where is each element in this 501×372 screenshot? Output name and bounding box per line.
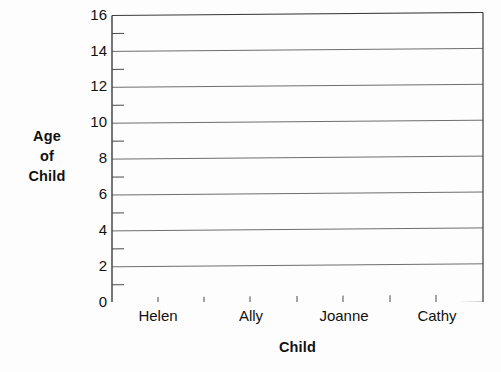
y-tick-label-0: 0 [74,293,107,308]
plot-svg [111,12,484,302]
y-tick-label-4: 4 [74,222,107,237]
x-tick-label-ally: Ally [239,307,263,325]
x-axis-tick-labels: Helen Ally Joanne Cathy [111,307,484,331]
y-tick-label-2: 2 [74,257,107,272]
x-axis-title: Child [111,338,484,356]
y-tick-label-16: 16 [74,6,107,21]
x-tick-label-cathy: Cathy [417,307,456,325]
y-tick-label-8: 8 [74,150,107,165]
plot-area [111,12,484,302]
y-tick-label-10: 10 [74,114,107,129]
y-tick-label-12: 12 [74,78,107,93]
x-tick-label-joanne: Joanne [319,307,368,325]
y-tick-label-14: 14 [74,42,107,57]
chart-container: Age of Child 16 14 12 10 8 6 4 2 0 [0,0,501,372]
y-tick-label-6: 6 [74,186,107,201]
y-axis-tick-labels: 16 14 12 10 8 6 4 2 0 [74,0,107,372]
x-tick-label-helen: Helen [138,307,177,325]
